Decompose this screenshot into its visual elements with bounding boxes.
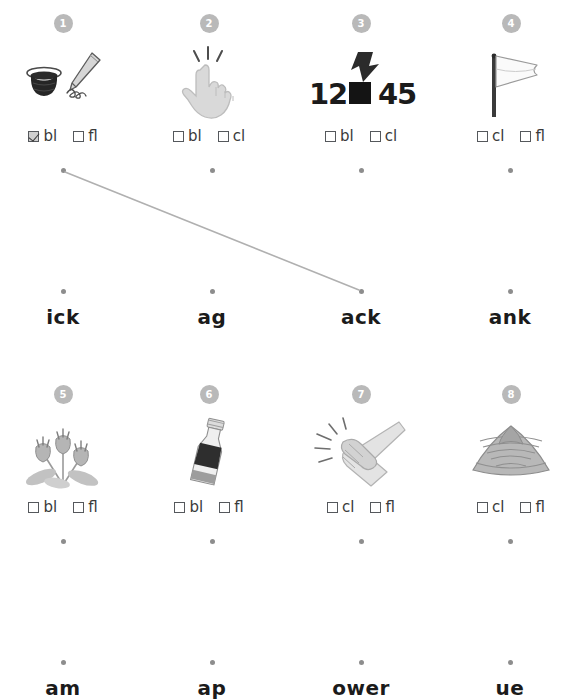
connector-dot-item-6[interactable] <box>210 539 215 544</box>
checkbox[interactable] <box>477 131 488 142</box>
choice-option[interactable]: bl <box>174 498 203 516</box>
choice-label: cl <box>492 498 504 516</box>
rime-label: am <box>3 676 123 699</box>
choice-row[interactable]: bl fl <box>136 498 282 516</box>
item-number-badge: 7 <box>352 385 371 404</box>
choice-row[interactable]: bl fl <box>0 127 136 145</box>
choice-label: fl <box>88 498 97 516</box>
rime-label: ap <box>152 676 272 699</box>
choice-label: fl <box>535 127 544 145</box>
item-card-4[interactable]: 4 cl fl <box>438 14 584 145</box>
checkbox[interactable] <box>174 502 185 513</box>
svg-text:1: 1 <box>309 77 329 111</box>
checkbox[interactable] <box>325 131 336 142</box>
choice-option[interactable]: cl <box>477 498 504 516</box>
choice-label: fl <box>234 498 243 516</box>
connector-dot-item-8[interactable] <box>508 539 513 544</box>
checkbox[interactable] <box>520 131 531 142</box>
connector-dot-rime-ue[interactable] <box>508 660 513 665</box>
worksheet: 1 bl fl <box>0 0 585 699</box>
choice-label: fl <box>88 127 97 145</box>
checkbox[interactable] <box>28 502 39 513</box>
connector-dot-item-1[interactable] <box>61 168 66 173</box>
choice-row[interactable]: bl cl <box>288 127 434 145</box>
rime-label: ick <box>3 305 123 329</box>
rime-label: ue <box>450 676 570 699</box>
choice-option[interactable]: fl <box>520 498 544 516</box>
checkbox[interactable] <box>219 502 230 513</box>
bottle-icon <box>136 414 282 492</box>
choice-label: fl <box>535 498 544 516</box>
svg-text:4: 4 <box>378 77 398 111</box>
choice-option[interactable]: bl <box>28 498 57 516</box>
connector-dot-item-7[interactable] <box>359 539 364 544</box>
connector-dot-rime-ick[interactable] <box>61 289 66 294</box>
choice-option[interactable]: bl <box>173 127 202 145</box>
flowers-icon <box>0 414 136 492</box>
item-number-badge: 6 <box>200 385 219 404</box>
item-number-badge: 4 <box>502 14 521 33</box>
blacked-out-number-arrow-icon: 1 2 4 5 <box>288 43 434 121</box>
checkbox-checked[interactable] <box>28 131 39 142</box>
choice-option[interactable]: fl <box>73 127 97 145</box>
choice-label: cl <box>385 127 397 145</box>
checkbox[interactable] <box>173 131 184 142</box>
connector-dot-item-3[interactable] <box>359 168 364 173</box>
checkbox[interactable] <box>520 502 531 513</box>
rime-label: ower <box>301 676 421 699</box>
item-number-badge: 5 <box>54 385 73 404</box>
connector-dot-item-4[interactable] <box>508 168 513 173</box>
choice-option[interactable]: bl <box>28 127 57 145</box>
item-card-7[interactable]: 7 cl <box>288 385 434 516</box>
ink-bottle-and-pen-icon <box>0 43 136 121</box>
checkbox[interactable] <box>218 131 229 142</box>
item-card-2[interactable]: 2 bl cl <box>136 14 282 145</box>
checkbox[interactable] <box>370 502 381 513</box>
choice-option[interactable]: cl <box>218 127 245 145</box>
svg-text:5: 5 <box>397 77 417 111</box>
choice-option[interactable]: cl <box>370 127 397 145</box>
choice-label: fl <box>385 498 394 516</box>
checkbox[interactable] <box>327 502 338 513</box>
choice-option[interactable]: fl <box>520 127 544 145</box>
choice-row[interactable]: bl fl <box>0 498 136 516</box>
clapping-hands-icon <box>288 414 434 492</box>
connector-dot-rime-ag[interactable] <box>210 289 215 294</box>
item-card-1[interactable]: 1 bl fl <box>0 14 136 145</box>
item-number-badge: 8 <box>502 385 521 404</box>
item-number-badge: 1 <box>54 14 73 33</box>
clam-shell-icon <box>438 414 584 492</box>
item-card-5[interactable]: 5 <box>0 385 136 516</box>
item-card-8[interactable]: 8 cl fl <box>438 385 584 516</box>
checkbox[interactable] <box>73 502 84 513</box>
choice-label: cl <box>492 127 504 145</box>
choice-row[interactable]: cl fl <box>438 127 584 145</box>
connector-dot-item-2[interactable] <box>210 168 215 173</box>
connector-dot-rime-ank[interactable] <box>508 289 513 294</box>
choice-label: cl <box>342 498 354 516</box>
choice-option[interactable]: cl <box>327 498 354 516</box>
svg-text:2: 2 <box>328 77 348 111</box>
choice-row[interactable]: cl fl <box>288 498 434 516</box>
choice-label: bl <box>188 127 202 145</box>
checkbox[interactable] <box>477 502 488 513</box>
connector-dot-rime-ack[interactable] <box>359 289 364 294</box>
item-card-6[interactable]: 6 bl fl <box>136 385 282 516</box>
rime-label: ack <box>301 305 421 329</box>
connector-dot-item-5[interactable] <box>61 539 66 544</box>
choice-option[interactable]: fl <box>219 498 243 516</box>
choice-option[interactable]: bl <box>325 127 354 145</box>
choice-label: bl <box>189 498 203 516</box>
choice-option[interactable]: fl <box>73 498 97 516</box>
choice-label: bl <box>340 127 354 145</box>
checkbox[interactable] <box>370 131 381 142</box>
choice-row[interactable]: bl cl <box>136 127 282 145</box>
connector-dot-rime-ower[interactable] <box>359 660 364 665</box>
checkbox[interactable] <box>73 131 84 142</box>
choice-option[interactable]: fl <box>370 498 394 516</box>
connector-dot-rime-ap[interactable] <box>210 660 215 665</box>
choice-option[interactable]: cl <box>477 127 504 145</box>
connector-dot-rime-am[interactable] <box>61 660 66 665</box>
choice-row[interactable]: cl fl <box>438 498 584 516</box>
item-card-3[interactable]: 3 1 2 4 5 bl cl <box>288 14 434 145</box>
